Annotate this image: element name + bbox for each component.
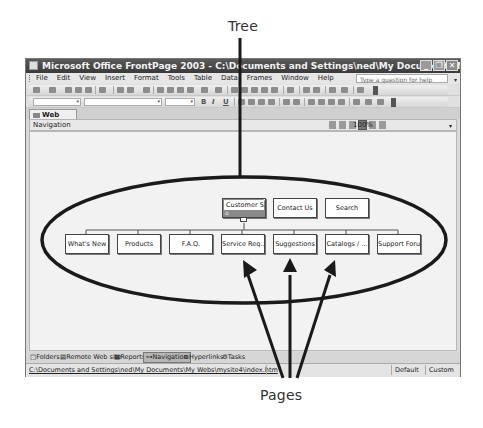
home-icon: ⌂: [225, 210, 229, 216]
menu-tools[interactable]: Tools: [168, 73, 185, 84]
align-left-icon[interactable]: [238, 99, 245, 105]
refresh-icon[interactable]: [303, 87, 310, 93]
insert-layer-icon[interactable]: [251, 87, 258, 93]
view-tab-tasks[interactable]: ⚙Tasks: [220, 352, 247, 363]
menu-bar: File Edit View Insert Format Tools Table…: [26, 73, 460, 84]
bold-button[interactable]: B: [201, 97, 206, 107]
view-tab-hyperlinks[interactable]: ⧉Hyperlinks: [182, 352, 225, 363]
folder-icon: [33, 113, 40, 118]
menu-format[interactable]: Format: [134, 73, 159, 84]
chevron-down-icon: ▾: [190, 98, 193, 104]
toolbar-options-icon[interactable]: [373, 86, 378, 95]
navigation-header: Navigation 100% ▾: [29, 119, 457, 131]
close-button[interactable]: ✕: [446, 60, 458, 71]
menu-file[interactable]: File: [36, 73, 48, 84]
chevron-down-icon: ▾: [157, 98, 160, 104]
decrease-font-icon[interactable]: [293, 99, 300, 105]
chevron-down-icon: ▾: [76, 98, 79, 104]
help-search-input[interactable]: Type a question for help: [356, 74, 448, 83]
decrease-indent-icon[interactable]: [328, 99, 335, 105]
open-icon[interactable]: [49, 87, 56, 93]
cut-icon[interactable]: [157, 87, 164, 93]
insert-table-icon[interactable]: [241, 87, 248, 93]
frontpage-window: Microsoft Office FrontPage 2003 - C:\Doc…: [25, 58, 461, 377]
menu-help[interactable]: Help: [318, 73, 334, 84]
maximize-button[interactable]: ❐: [433, 60, 445, 71]
new-page-icon[interactable]: [329, 121, 336, 129]
print-icon[interactable]: [117, 87, 124, 93]
align-right-icon[interactable]: [258, 99, 265, 105]
underline-button[interactable]: U: [223, 97, 229, 107]
save-icon[interactable]: [65, 87, 72, 93]
menu-view[interactable]: View: [79, 73, 96, 84]
page-node-support-forum[interactable]: Support Forum: [377, 234, 421, 254]
standard-toolbar: [26, 84, 460, 96]
stop-icon[interactable]: [313, 87, 320, 93]
menu-window[interactable]: Window: [281, 73, 309, 84]
page-node-service-request[interactable]: Service Req...: [221, 234, 265, 254]
increase-font-icon[interactable]: [283, 99, 290, 105]
hyperlink-icon[interactable]: [287, 87, 294, 93]
status-cell-empty: [266, 365, 303, 375]
toolbar-grip-icon[interactable]: [29, 75, 32, 82]
page-node-catalogs[interactable]: Catalogs / ...: [325, 234, 369, 254]
redo-icon[interactable]: [215, 87, 222, 93]
web-component-icon[interactable]: [231, 87, 238, 93]
external-link-icon[interactable]: [379, 121, 386, 129]
zoom-select[interactable]: 100%: [353, 120, 373, 131]
help-icon[interactable]: [357, 87, 364, 93]
show-all-icon[interactable]: [329, 87, 336, 93]
font-size-select[interactable]: ▾: [165, 98, 195, 106]
new-page-icon[interactable]: [33, 87, 40, 93]
chevron-down-icon[interactable]: ▾: [449, 120, 452, 131]
font-select[interactable]: ▾: [84, 98, 162, 106]
add-existing-page-icon[interactable]: [339, 121, 346, 129]
italic-button[interactable]: I: [212, 97, 215, 107]
navigation-canvas[interactable]: Customer S... ⌂ Contact Us Search What's…: [29, 131, 457, 351]
toggle-pane-icon[interactable]: [99, 87, 106, 93]
style-select[interactable]: ▾: [33, 98, 81, 106]
search-icon[interactable]: [75, 87, 82, 93]
menu-insert[interactable]: Insert: [105, 73, 125, 84]
bullets-icon[interactable]: [318, 99, 325, 105]
format-painter-icon[interactable]: [187, 87, 194, 93]
borders-icon[interactable]: [353, 99, 360, 105]
highlight-icon[interactable]: [365, 99, 372, 105]
paste-icon[interactable]: [177, 87, 184, 93]
view-tab-reports[interactable]: ▦Reports: [112, 352, 147, 363]
justify-icon[interactable]: [268, 99, 275, 105]
spelling-icon[interactable]: [143, 87, 150, 93]
menu-edit[interactable]: Edit: [57, 73, 71, 84]
tree-callout-label: Tree: [228, 18, 258, 34]
insert-picture-icon[interactable]: [261, 87, 268, 93]
status-default: Default: [391, 365, 422, 375]
page-node-search[interactable]: Search: [325, 198, 369, 218]
layer-anchor-icon[interactable]: [341, 87, 348, 93]
minimize-button[interactable]: _: [420, 60, 432, 71]
font-color-icon[interactable]: [377, 99, 384, 105]
drawing-icon[interactable]: [271, 87, 278, 93]
toolbar-options-icon[interactable]: [391, 98, 396, 107]
page-node-contact-us[interactable]: Contact Us: [273, 198, 317, 218]
page-node-products[interactable]: Products: [117, 234, 161, 254]
increase-indent-icon[interactable]: [338, 99, 345, 105]
publish-icon[interactable]: [85, 87, 92, 93]
view-tab-folders[interactable]: □Folders: [28, 352, 62, 363]
page-node-suggestions[interactable]: Suggestions: [273, 234, 317, 254]
page-node-whats-new[interactable]: What's New: [65, 234, 109, 254]
collapse-toggle-button[interactable]: [240, 217, 247, 222]
preview-icon[interactable]: [127, 87, 134, 93]
align-center-icon[interactable]: [248, 99, 255, 105]
numbering-icon[interactable]: [308, 99, 315, 105]
menu-data[interactable]: Data: [221, 73, 238, 84]
pages-callout-label: Pages: [260, 387, 302, 403]
undo-icon[interactable]: [201, 87, 208, 93]
menu-frames[interactable]: Frames: [247, 73, 272, 84]
formatting-toolbar: ▾ ▾ ▾ B I U: [26, 96, 460, 108]
status-custom: Custom: [425, 365, 457, 375]
copy-icon[interactable]: [167, 87, 174, 93]
menu-table[interactable]: Table: [194, 73, 212, 84]
page-node-customer-service[interactable]: Customer S... ⌂: [222, 198, 266, 218]
page-node-faq[interactable]: F.A.Q.: [169, 234, 213, 254]
view-tabs: □Folders ▤Remote Web site ▦Reports ⊶Navi…: [26, 352, 460, 363]
